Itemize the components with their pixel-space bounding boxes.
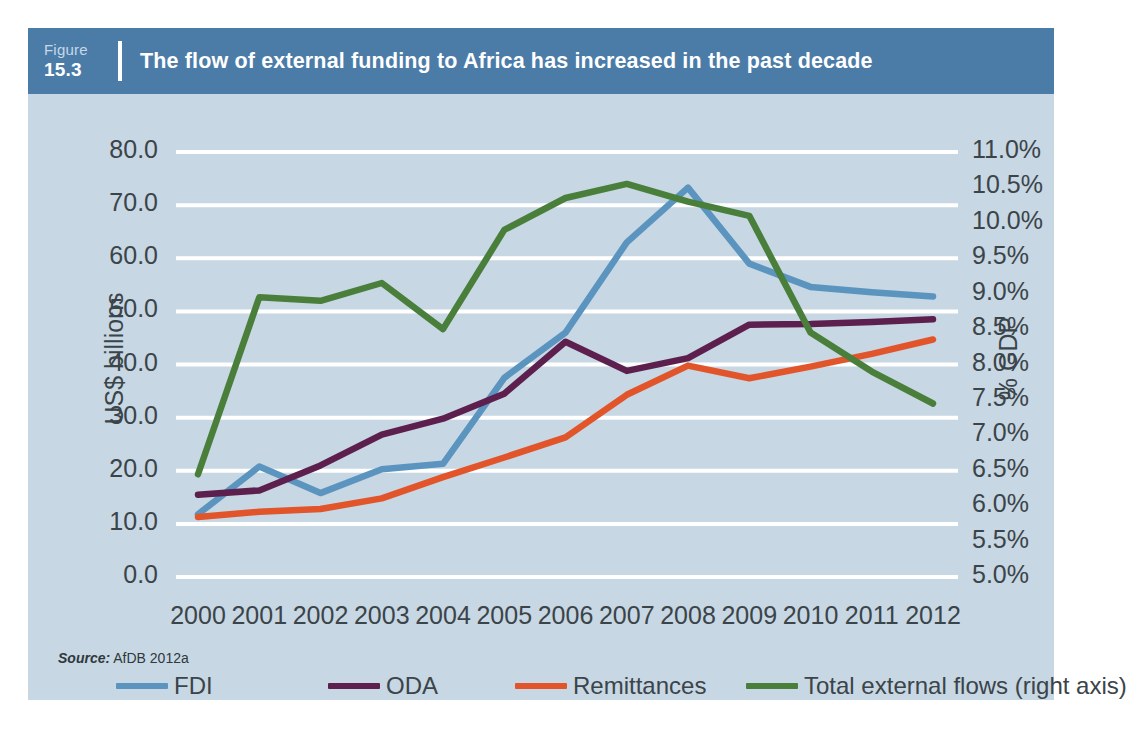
y-axis-right-tick-label: 10.5% <box>972 170 1082 199</box>
y-axis-left-tick-label: 60.0 <box>48 241 158 270</box>
legend-item[interactable]: Remittances <box>515 672 706 700</box>
y-axis-right-tick-label: 5.5% <box>972 525 1082 554</box>
title-divider <box>118 41 122 81</box>
series-line <box>198 188 933 515</box>
series-lines <box>198 184 933 517</box>
y-axis-right-tick-label: 10.0% <box>972 206 1082 235</box>
chart-plot-area: US$ billions % GDP 0.010.020.030.040.050… <box>28 94 1054 700</box>
legend-item[interactable]: ODA <box>328 672 438 700</box>
series-line <box>198 319 933 494</box>
y-axis-left-tick-label: 70.0 <box>48 188 158 217</box>
y-axis-left-tick-label: 0.0 <box>48 560 158 589</box>
y-axis-right-tick-label: 11.0% <box>972 135 1082 164</box>
source-label: Source: <box>58 650 110 666</box>
y-axis-right-tick-label: 7.0% <box>972 418 1082 447</box>
legend-swatch-icon <box>328 683 380 689</box>
y-axis-right-tick-label: 9.0% <box>972 277 1082 306</box>
legend-swatch-icon <box>746 683 798 689</box>
y-axis-left-tick-label: 40.0 <box>48 348 158 377</box>
figure-header: Figure 15.3 The flow of external funding… <box>28 28 1054 94</box>
chart-legend: FDIODARemittancesTotal external flows (r… <box>28 666 1054 706</box>
legend-swatch-icon <box>515 683 567 689</box>
y-axis-left-tick-label: 80.0 <box>48 135 158 164</box>
legend-swatch-icon <box>116 683 168 689</box>
figure-badge: Figure 15.3 <box>28 42 118 80</box>
legend-item[interactable]: FDI <box>116 672 213 700</box>
y-axis-right-tick-label: 8.5% <box>972 312 1082 341</box>
legend-item-label: Total external flows (right axis) <box>804 672 1127 700</box>
y-axis-left-tick-label: 50.0 <box>48 294 158 323</box>
figure-badge-number: 15.3 <box>44 59 118 80</box>
y-axis-right-tick-label: 5.0% <box>972 560 1082 589</box>
y-axis-left-tick-label: 10.0 <box>48 507 158 536</box>
legend-item-label: ODA <box>386 672 438 700</box>
y-axis-right-tick-label: 6.5% <box>972 454 1082 483</box>
y-axis-left-tick-label: 20.0 <box>48 454 158 483</box>
legend-item-label: Remittances <box>573 672 706 700</box>
legend-item[interactable]: Total external flows (right axis) <box>746 672 1127 700</box>
y-axis-left-tick-label: 30.0 <box>48 401 158 430</box>
figure-badge-word: Figure <box>44 42 118 59</box>
y-axis-right-tick-label: 9.5% <box>972 241 1082 270</box>
y-axis-right-tick-label: 7.5% <box>972 383 1082 412</box>
source-note: Source: AfDB 2012a <box>58 650 189 666</box>
figure-title: The flow of external funding to Africa h… <box>140 49 873 74</box>
source-text: AfDB 2012a <box>110 650 189 666</box>
x-axis-tick-label: 2012 <box>894 601 972 630</box>
legend-item-label: FDI <box>174 672 213 700</box>
y-axis-right-tick-label: 8.0% <box>972 348 1082 377</box>
figure-panel: Figure 15.3 The flow of external funding… <box>28 28 1054 700</box>
y-axis-right-tick-label: 6.0% <box>972 489 1082 518</box>
